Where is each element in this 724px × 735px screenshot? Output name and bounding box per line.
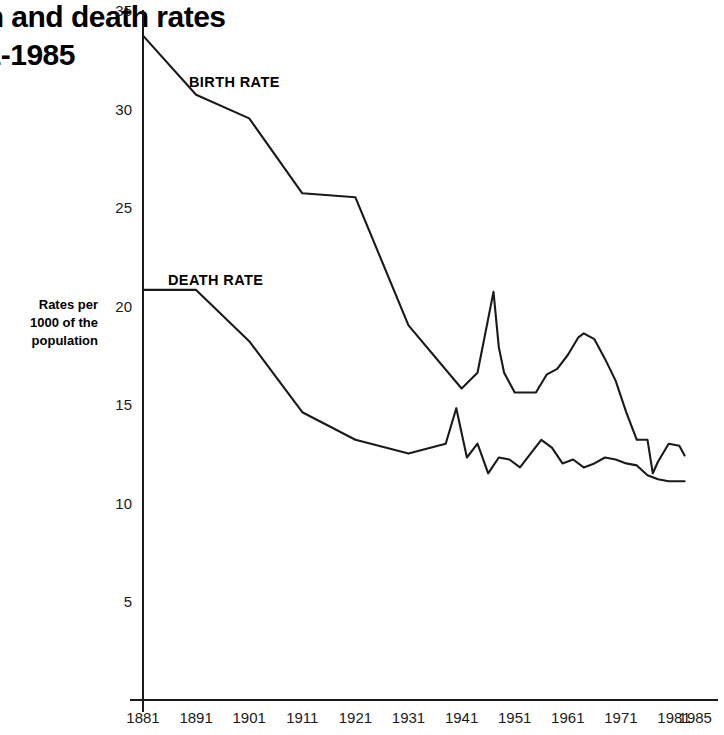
- axes: [130, 10, 718, 712]
- x-tick-label: 1901: [233, 709, 266, 726]
- x-tick-label: 1921: [339, 709, 372, 726]
- x-tick-label: 1881: [126, 709, 159, 726]
- x-tick-label: 1931: [392, 709, 425, 726]
- y-tick-label: 35: [98, 2, 132, 19]
- y-tick-label: 25: [98, 199, 132, 216]
- x-tick-label: 1985: [679, 709, 712, 726]
- x-tick-label: 1961: [551, 709, 584, 726]
- death-rate-label: DEATH RATE: [168, 272, 263, 288]
- death-rate-line: [143, 290, 685, 481]
- y-tick-label: 15: [98, 396, 132, 413]
- chart-figure: Birth and death rates 1881-1985 Rates pe…: [0, 0, 724, 735]
- y-tick-label: 5: [98, 593, 132, 610]
- x-tick-label: 1941: [445, 709, 478, 726]
- y-tick-label: 30: [98, 100, 132, 117]
- x-tick-label: 1891: [179, 709, 212, 726]
- y-tick-label: 10: [98, 494, 132, 511]
- y-tick-label: 20: [98, 297, 132, 314]
- birth-rate-line: [143, 36, 685, 474]
- x-tick-label: 1911: [286, 709, 318, 726]
- x-tick-label: 1971: [604, 709, 637, 726]
- series-paths: [143, 36, 685, 482]
- birth-rate-label: BIRTH RATE: [189, 74, 280, 90]
- x-tick-label: 1951: [498, 709, 531, 726]
